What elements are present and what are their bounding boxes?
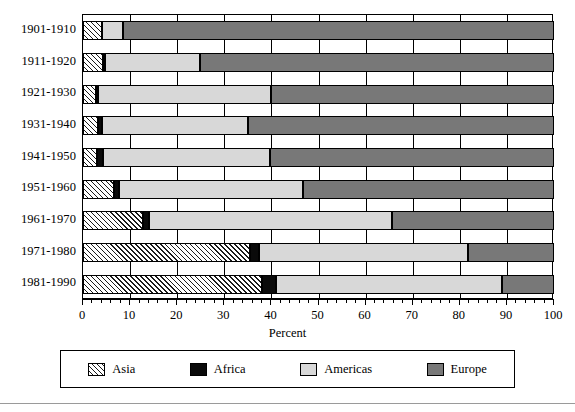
chart-row <box>83 237 552 269</box>
x-tick-label: 80 <box>439 308 479 323</box>
x-tick-minor <box>487 299 488 303</box>
legend-label: Europe <box>451 362 487 377</box>
chart-row <box>83 15 552 47</box>
y-axis-label-1951-1960: 1951-1960 <box>0 180 76 194</box>
footer-divider <box>0 403 575 404</box>
y-axis-label-1981-1990: 1981-1990 <box>0 275 76 289</box>
x-tick-minor <box>534 299 535 303</box>
bar-segment-asia <box>83 243 250 262</box>
x-tick-minor <box>101 299 102 303</box>
chart-legend: AsiaAfricaAmericasEurope <box>60 350 515 388</box>
legend-label: Americas <box>324 362 372 377</box>
y-axis-label-1941-1950: 1941-1950 <box>0 149 76 163</box>
x-tick-minor <box>110 299 111 303</box>
bar-segment-americas <box>102 116 248 135</box>
bar-segment-americas <box>149 211 392 230</box>
y-axis-label-1921-1930: 1921-1930 <box>0 85 76 99</box>
bar-segment-americas <box>259 243 468 262</box>
bar-segment-asia <box>83 116 98 135</box>
x-tick-minor <box>431 299 432 303</box>
x-tick-minor <box>299 299 300 303</box>
x-tick-label: 40 <box>250 308 290 323</box>
x-tick-minor <box>91 299 92 303</box>
bar-segment-europe <box>303 180 554 199</box>
x-tick-minor <box>421 299 422 303</box>
bar-segment-africa <box>250 243 259 262</box>
x-tick-minor <box>148 299 149 303</box>
bar-segment-asia <box>83 211 143 230</box>
x-tick-minor <box>186 299 187 303</box>
x-tick-minor <box>120 299 121 303</box>
legend-swatch-europe <box>427 363 444 376</box>
x-tick-minor <box>336 299 337 303</box>
bar-segment-americas <box>119 180 303 199</box>
stacked-bar <box>83 53 554 72</box>
x-tick-minor <box>440 299 441 303</box>
x-tick-minor <box>289 299 290 303</box>
legend-item-asia[interactable]: Asia <box>88 362 135 377</box>
stacked-bar <box>83 275 554 294</box>
x-tick-minor <box>496 299 497 303</box>
legend-swatch-africa <box>190 363 207 376</box>
bar-segment-americas <box>276 275 503 294</box>
chart-row <box>83 268 552 300</box>
x-tick-major <box>412 299 413 305</box>
legend-item-americas[interactable]: Americas <box>300 362 372 377</box>
stacked-bar <box>83 148 554 167</box>
legend-swatch-americas <box>300 363 317 376</box>
x-tick-minor <box>280 299 281 303</box>
x-tick-minor <box>167 299 168 303</box>
x-tick-minor <box>157 299 158 303</box>
bar-segment-asia <box>83 148 97 167</box>
bar-segment-americas <box>105 53 200 72</box>
x-axis <box>82 299 553 300</box>
bar-segment-europe <box>248 116 554 135</box>
chart-figure: 1901-19101911-19201921-19301931-19401941… <box>0 0 575 412</box>
x-tick-minor <box>468 299 469 303</box>
bar-segment-asia <box>83 21 102 40</box>
x-tick-major <box>553 299 554 305</box>
chart-row <box>83 173 552 205</box>
bar-segment-americas <box>102 21 123 40</box>
x-tick-major <box>223 299 224 305</box>
legend-item-europe[interactable]: Europe <box>427 362 487 377</box>
x-tick-minor <box>402 299 403 303</box>
x-tick-minor <box>525 299 526 303</box>
x-tick-minor <box>252 299 253 303</box>
x-tick-label: 10 <box>109 308 149 323</box>
stacked-bar <box>83 116 554 135</box>
x-tick-minor <box>515 299 516 303</box>
bar-segment-africa <box>262 275 276 294</box>
x-tick-minor <box>355 299 356 303</box>
x-tick-minor <box>327 299 328 303</box>
stacked-bar <box>83 243 554 262</box>
chart-row <box>83 205 552 237</box>
bar-segment-europe <box>271 85 554 104</box>
x-tick-major <box>365 299 366 305</box>
bar-segment-asia <box>83 180 114 199</box>
x-tick-label: 20 <box>156 308 196 323</box>
x-tick-minor <box>233 299 234 303</box>
bar-segment-asia <box>83 53 103 72</box>
x-tick-minor <box>261 299 262 303</box>
x-tick-minor <box>374 299 375 303</box>
bar-segment-europe <box>123 21 554 40</box>
y-axis-label-1961-1970: 1961-1970 <box>0 212 76 226</box>
legend-item-africa[interactable]: Africa <box>190 362 246 377</box>
x-tick-label: 50 <box>298 308 338 323</box>
x-tick-minor <box>139 299 140 303</box>
x-tick-major <box>506 299 507 305</box>
chart-row <box>83 47 552 79</box>
y-axis-label-1971-1980: 1971-1980 <box>0 244 76 258</box>
x-tick-minor <box>242 299 243 303</box>
x-axis-title: Percent <box>0 326 575 341</box>
bar-segment-asia <box>83 85 96 104</box>
chart-row <box>83 142 552 174</box>
y-axis-label-1911-1920: 1911-1920 <box>0 54 76 68</box>
bar-segment-europe <box>200 53 554 72</box>
x-tick-minor <box>204 299 205 303</box>
bar-segment-asia <box>83 275 262 294</box>
x-tick-major <box>459 299 460 305</box>
x-tick-minor <box>449 299 450 303</box>
bar-segment-europe <box>502 275 554 294</box>
